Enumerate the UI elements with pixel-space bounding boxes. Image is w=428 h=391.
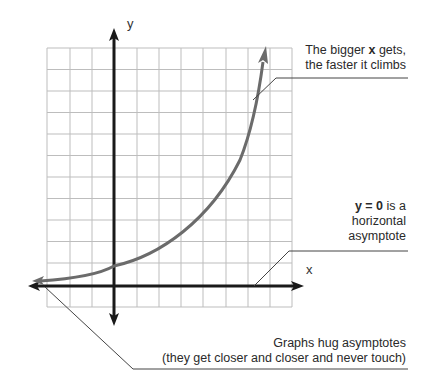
grid [47, 48, 292, 307]
asymptote-annotation: y = 0 is a horizontal asymptote [286, 199, 406, 244]
hug-annotation: Graphs hug asymptotes (they get closer a… [106, 336, 406, 366]
exponential-curve [32, 46, 268, 285]
x-axis-label: x [306, 262, 313, 277]
growth-annotation: The bigger x gets, the faster it climbs [226, 43, 406, 73]
y-axis-label: y [127, 16, 134, 31]
